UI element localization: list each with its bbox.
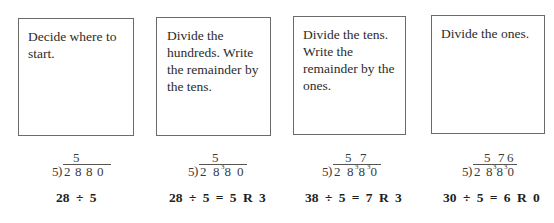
dividend-digit: 30 xyxy=(367,164,371,180)
instruction-text: Divide the hundreds. Write the remainder… xyxy=(167,28,258,94)
instruction-text: Divide the ones. xyxy=(441,26,529,41)
equation: 38 ÷ 5 = 7 R 3 xyxy=(305,190,402,206)
dividend-digit: 38 xyxy=(355,164,359,180)
dividend-digit: 30 xyxy=(504,164,508,180)
instruction-box: Divide the tens. Write the remainder by … xyxy=(293,16,406,135)
division-bracket: ) xyxy=(468,163,472,179)
dividend-digit: 38 xyxy=(221,164,225,180)
instruction-box: Divide the ones. xyxy=(431,15,545,134)
equation: 30 ÷ 5 = 6 R 0 xyxy=(443,190,540,206)
step-4: Divide the ones. 5 7 6 5 ) 2 8 38 30 30 … xyxy=(0,0,140,223)
equation: 28 ÷ 5 = 5 R 3 xyxy=(169,190,266,206)
instruction-box: Divide the hundreds. Write the remainder… xyxy=(156,17,271,136)
division-bracket: ) xyxy=(194,163,198,179)
instruction-text: Divide the tens. Write the remainder by … xyxy=(303,27,394,93)
division-bracket: ) xyxy=(328,163,332,179)
dividend-digit: 38 xyxy=(493,164,497,180)
